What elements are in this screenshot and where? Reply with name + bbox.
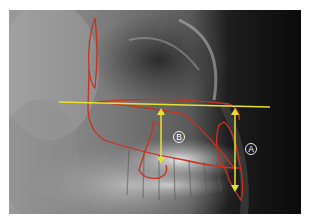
svg-text:B: B	[176, 132, 182, 142]
xray-image: B A	[9, 10, 301, 214]
svg-text:A: A	[248, 144, 254, 154]
radiograph-canvas: B A	[9, 10, 301, 214]
